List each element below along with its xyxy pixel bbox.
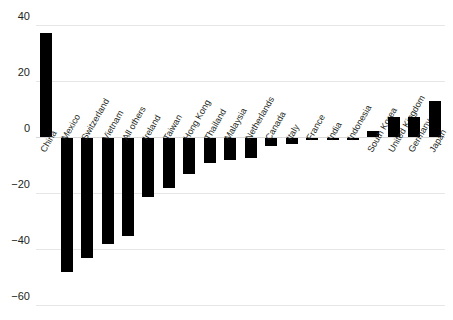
y-axis-tick-label: −60 <box>0 291 30 302</box>
x-axis-category-label: Italy <box>285 123 301 142</box>
bar[interactable] <box>163 138 175 188</box>
y-axis-tick-label: −40 <box>0 235 30 246</box>
y-axis-tick-label: 0 <box>0 123 30 134</box>
gridline <box>36 249 445 250</box>
bar[interactable] <box>102 138 114 244</box>
gridline <box>36 25 445 26</box>
bar[interactable] <box>183 138 195 174</box>
gridline <box>36 193 445 194</box>
plot-area: 40200−20−40−60ChinaMexicoSwitzerlandViet… <box>0 0 453 320</box>
bar[interactable] <box>40 33 52 137</box>
bar-chart: 40200−20−40−60ChinaMexicoSwitzerlandViet… <box>0 0 453 320</box>
y-axis-tick-label: 20 <box>0 67 30 78</box>
x-axis-category-label: India <box>326 121 344 142</box>
gridline <box>36 305 445 306</box>
y-axis-tick-label: 40 <box>0 11 30 22</box>
y-axis-tick-label: −20 <box>0 179 30 190</box>
bar[interactable] <box>142 138 154 197</box>
bar[interactable] <box>61 138 73 272</box>
bar[interactable] <box>122 138 134 236</box>
bar[interactable] <box>81 138 93 258</box>
gridline <box>36 81 445 82</box>
